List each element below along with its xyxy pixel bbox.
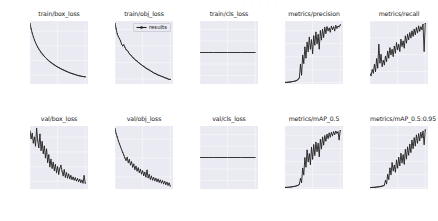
top-artifact: · · · · · · · · · (243, 0, 393, 7)
plot-panel-train-cls-loss: train/cls_loss−0.04−0.020.000.020.040501… (200, 10, 258, 96)
plot-area: 0.040.060.080.10050100 (30, 126, 88, 189)
plot-panel-train-box-loss: train/box_loss0.040.060.080.10050100 (30, 10, 88, 96)
plot-area: 0.00.20.40.60.8050100 (285, 126, 343, 189)
plot-panel-metrics-recall: metrics/recall0.20.40.60.8050100 (370, 10, 428, 96)
panel-title: train/box_loss (30, 10, 88, 20)
legend: results (133, 23, 171, 32)
legend-label: results (149, 25, 167, 30)
panel-title: train/obj_loss (115, 10, 173, 20)
panel-title: metrics/mAP_0.5:0.95 (370, 115, 428, 125)
panel-title: metrics/recall (370, 10, 428, 20)
plot-area: 0.040.060.080.10050100 (30, 21, 88, 84)
panel-title: val/cls_loss (200, 115, 258, 125)
plot-panel-val-cls-loss: val/cls_loss−0.04−0.020.000.020.04050100 (200, 115, 258, 201)
plot-area: 0.0100.0150.020050100 (115, 126, 173, 189)
training-metrics-figure: · · · · · · · · · train/box_loss0.040.06… (0, 0, 438, 221)
plot-panel-metrics-map-0-5-0-95: metrics/mAP_0.5:0.950.00.10.20.30.405010… (370, 115, 428, 201)
legend-line-icon (136, 25, 147, 30)
plot-area: 0.00.20.40.60.8050100 (285, 21, 343, 84)
plot-area: results0.0100.0150.0200.025050100 (115, 21, 173, 84)
plot-panel-train-obj-loss: train/obj_lossresults0.0100.0150.0200.02… (115, 10, 173, 96)
panel-title: metrics/mAP_0.5 (285, 115, 343, 125)
plot-area: 0.00.10.20.30.4050100 (370, 126, 428, 189)
plot-panel-metrics-map-0-5: metrics/mAP_0.50.00.20.40.60.8050100 (285, 115, 343, 201)
plot-area: −0.04−0.020.000.020.04050100 (200, 126, 258, 189)
panel-title: train/cls_loss (200, 10, 258, 20)
plot-area: −0.04−0.020.000.020.04050100 (200, 21, 258, 84)
panel-title: val/box_loss (30, 115, 88, 125)
plot-area: 0.20.40.60.8050100 (370, 21, 428, 84)
plot-panel-val-box-loss: val/box_loss0.040.060.080.10050100 (30, 115, 88, 201)
panel-title: metrics/precision (285, 10, 343, 20)
panel-title: val/obj_loss (115, 115, 173, 125)
plot-panel-metrics-precision: metrics/precision0.00.20.40.60.8050100 (285, 10, 343, 96)
plot-panel-val-obj-loss: val/obj_loss0.0100.0150.020050100 (115, 115, 173, 201)
